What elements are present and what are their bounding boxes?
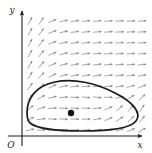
field-arrow [138,75,146,76]
field-arrow [93,42,101,43]
field-arrow [28,83,33,90]
field-arrow [116,117,123,122]
field-arrow [59,20,67,22]
field-arrow [104,107,112,110]
field-arrow [28,61,32,68]
field-arrow [115,75,123,76]
field-arrow [71,53,79,54]
field-arrow [38,95,45,99]
field-arrow [93,21,101,22]
field-arrow [48,96,56,98]
field-arrow [104,118,112,121]
field-arrow [48,41,56,44]
field-arrow [138,128,146,132]
field-arrow [138,85,146,88]
field-arrow [116,105,123,110]
field-arrow [139,116,144,123]
field-arrow [49,63,57,66]
field-arrow [139,94,145,100]
field-arrow [71,42,79,43]
field-arrow [82,31,90,32]
phase-plane-svg: y x O [0,0,152,153]
field-arrow [127,95,134,99]
field-arrow [104,32,112,33]
field-arrow [38,61,43,68]
field-arrow [71,108,79,109]
field-arrow [28,39,32,47]
x-axis-label: x [137,140,142,150]
phase-plane-figure: y x O [0,0,152,153]
field-arrow [49,85,57,88]
field-arrow [138,53,146,54]
field-arrow [115,53,123,54]
field-arrow [82,53,90,54]
field-arrow [104,86,112,87]
field-arrow [39,39,44,46]
field-arrow [59,42,67,44]
field-arrow [115,86,123,87]
field-arrow [93,108,101,109]
field-arrow [127,128,135,131]
field-arrow [28,17,32,25]
field-arrow [93,64,101,65]
field-arrow [48,20,56,23]
field-arrow [138,64,146,65]
field-arrow [82,21,90,22]
field-arrow [71,75,79,77]
field-arrow [93,118,101,119]
field-arrow [104,21,112,22]
field-arrow [93,75,101,76]
field-arrow [127,53,135,54]
field-arrow [38,72,44,78]
field-arrow [59,119,67,120]
field-arrow [39,17,44,24]
field-arrow [115,64,123,65]
field-arrow [128,116,134,122]
field-arrow [104,75,112,76]
direction-field-group [26,17,146,132]
field-arrow [93,97,101,98]
field-arrow [60,74,68,76]
field-arrow [71,64,79,65]
field-arrow [115,43,123,44]
field-arrow [140,105,145,112]
origin-label: O [7,140,15,150]
y-axis-label: y [8,5,15,15]
field-arrow [104,64,112,65]
field-arrow [82,86,90,87]
field-arrow [26,129,34,131]
field-arrow [48,52,56,55]
field-arrow [82,75,90,76]
field-arrow [28,28,32,36]
field-arrow [59,97,67,98]
field-arrow [48,30,56,33]
field-arrow [59,31,67,33]
field-arrow [48,108,56,109]
field-arrow [93,32,101,33]
field-arrow [71,20,79,21]
closed-orbit-curve [27,81,138,131]
field-arrow [59,64,67,66]
field-arrow [39,28,44,35]
field-arrow [71,31,79,32]
field-arrow [82,97,90,98]
field-arrow [71,86,79,87]
field-arrow [59,85,67,87]
field-arrow [104,53,112,54]
field-arrow [82,42,90,43]
equilibrium-point [68,110,74,116]
field-arrow [127,85,135,87]
field-arrow [37,119,45,120]
field-arrow [28,72,33,79]
field-arrow [127,64,135,65]
field-arrow [59,53,67,55]
field-arrow [93,53,101,54]
field-arrow [39,50,44,57]
field-arrow [104,43,112,44]
field-arrow [49,74,57,78]
field-arrow [37,107,45,110]
field-arrow [28,50,32,58]
field-arrow [127,75,135,76]
field-arrow [82,64,90,65]
